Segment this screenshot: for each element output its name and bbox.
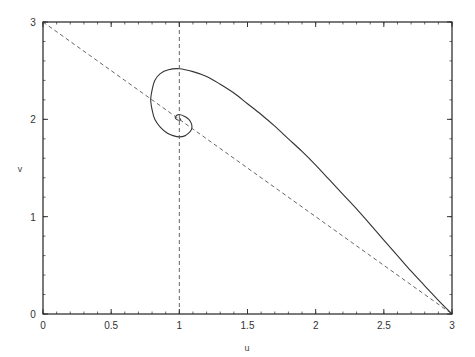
series-layer: [43, 22, 452, 314]
phase-plane-chart: 00.511.522.53 0123 u v: [0, 0, 475, 357]
x-tick-label: 2: [313, 320, 319, 331]
x-tick-label: 1.5: [241, 320, 255, 331]
x-tick-label: 0: [40, 320, 46, 331]
y-tick-label: 1: [30, 212, 36, 223]
x-axis-label: u: [244, 343, 249, 353]
x-tick-label: 0.5: [104, 320, 118, 331]
nullcline-dashed-line: [43, 22, 452, 314]
x-tick-label: 3: [449, 320, 455, 331]
x-tick-label: 2.5: [377, 320, 391, 331]
y-axis-ticks: 0123: [30, 17, 452, 320]
x-axis-ticks: 00.511.522.53: [40, 22, 455, 331]
y-tick-label: 0: [30, 309, 36, 320]
x-tick-label: 1: [177, 320, 183, 331]
y-axis-label: v: [18, 164, 23, 174]
trajectory-curve: [151, 69, 452, 314]
y-tick-label: 3: [30, 17, 36, 28]
y-tick-label: 2: [30, 114, 36, 125]
